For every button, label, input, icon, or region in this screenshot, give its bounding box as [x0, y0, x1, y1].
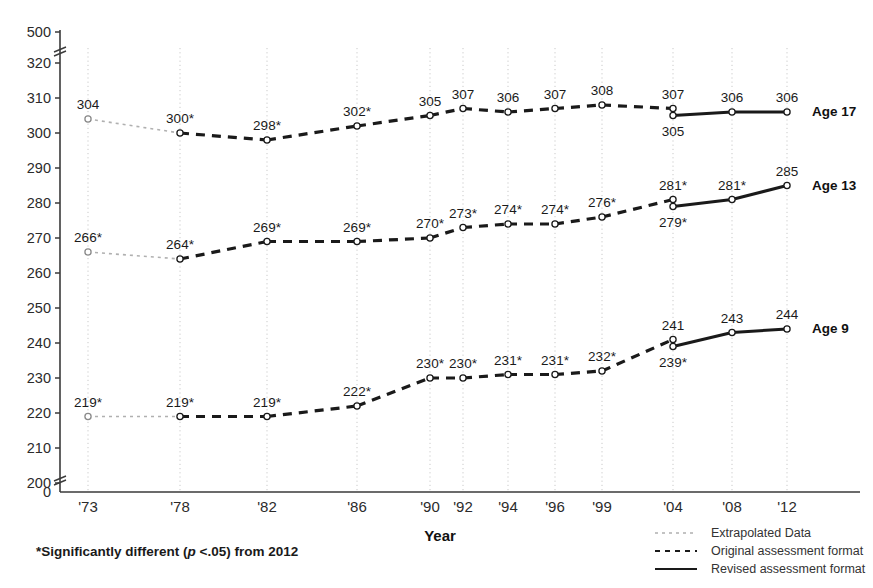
data-point-label: 276*: [588, 195, 617, 210]
series-segment: [555, 371, 602, 375]
data-point-marker: [670, 343, 676, 349]
data-point-label: 244: [776, 307, 799, 322]
data-point-marker: [264, 137, 270, 143]
data-point-label: 269*: [253, 220, 282, 235]
data-point-label: 239*: [659, 355, 688, 370]
x-tick-label-y78: '78: [170, 498, 190, 515]
x-tick-label-y99: '99: [592, 498, 612, 515]
data-point-label: 266*: [74, 230, 103, 245]
data-point-label: 219*: [253, 395, 282, 410]
data-point-marker: [670, 203, 676, 209]
series-segment: [555, 217, 602, 224]
data-point-label: 231*: [541, 353, 570, 368]
data-point-label: 298*: [253, 118, 282, 133]
data-point-marker: [599, 214, 605, 220]
data-point-marker: [670, 105, 676, 111]
data-point-label: 222*: [343, 384, 372, 399]
series-label-age-9: Age 9: [812, 321, 849, 336]
data-point-marker: [505, 109, 511, 115]
data-point-marker: [505, 371, 511, 377]
series-segment: [430, 109, 463, 116]
data-point-marker: [670, 112, 676, 118]
y-tick-label: 270: [27, 230, 51, 246]
data-point-label: 279*: [659, 215, 688, 230]
y-tick-label: 280: [27, 195, 51, 211]
y-tick-label: 210: [27, 440, 51, 456]
data-point-marker: [729, 196, 735, 202]
y-tick-label: 500: [27, 24, 51, 40]
x-axis-title: Year: [424, 527, 456, 544]
data-point-marker: [264, 413, 270, 419]
y-tick-label: 310: [27, 90, 51, 106]
data-point-marker: [85, 116, 91, 122]
x-tick-label-y96: '96: [545, 498, 565, 515]
data-point-label: 308: [591, 83, 614, 98]
data-point-marker: [599, 102, 605, 108]
footnote-text: *Significantly different (p <.05) from 2…: [36, 544, 298, 559]
data-point-label: 307: [452, 87, 475, 102]
data-point-label: 219*: [74, 395, 103, 410]
x-tick-label-y08: '08: [722, 498, 742, 515]
data-point-marker: [670, 196, 676, 202]
y-tick-label: 0: [43, 484, 51, 500]
data-point-marker: [670, 336, 676, 342]
series-segment: [673, 112, 732, 116]
x-axis-tick-labels: '73'78'82'86'90'92'94'96'99'04'08'12Year: [78, 498, 797, 544]
x-tick-label-y92: '92: [453, 498, 473, 515]
footnote-post: <.05) from 2012: [196, 544, 298, 559]
data-point-marker: [552, 371, 558, 377]
series-segment: [88, 252, 180, 259]
data-point-marker: [177, 413, 183, 419]
data-point-marker: [552, 105, 558, 111]
naep-trend-chart: 5003203103002902802702602502402302202102…: [0, 0, 873, 588]
data-series: [85, 102, 790, 420]
data-point-label: 306: [721, 90, 744, 105]
data-point-marker: [354, 403, 360, 409]
y-tick-label: 300: [27, 125, 51, 141]
data-point-marker: [177, 130, 183, 136]
data-point-marker: [85, 413, 91, 419]
x-tick-label-y12: '12: [777, 498, 797, 515]
y-tick-label: 290: [27, 160, 51, 176]
data-point-label: 307: [662, 87, 685, 102]
series-segment: [673, 333, 732, 347]
data-point-label: 230*: [449, 356, 478, 371]
series-segment: [463, 109, 508, 113]
data-point-marker: [784, 326, 790, 332]
y-axis-ticks: 5003203103002902802702602502402302202102…: [27, 24, 60, 500]
data-point-marker: [460, 375, 466, 381]
data-point-label: 306: [776, 90, 799, 105]
legend-label-original: Original assessment format: [711, 544, 864, 558]
legend-label-revised: Revised assessment format: [711, 562, 866, 576]
x-tick-label-y86: '86: [347, 498, 367, 515]
y-tick-label: 220: [27, 405, 51, 421]
series-segment: [555, 105, 602, 109]
footnote-pre: *Significantly different (: [36, 544, 188, 559]
data-point-label: 219*: [166, 395, 195, 410]
data-point-marker: [85, 249, 91, 255]
data-point-label: 230*: [416, 356, 445, 371]
data-point-label: 232*: [588, 349, 617, 364]
series-segment: [673, 200, 732, 207]
series-segment: [732, 329, 787, 333]
data-point-marker: [599, 368, 605, 374]
data-point-marker: [460, 224, 466, 230]
x-tick-label-y04: '04: [663, 498, 683, 515]
data-point-label: 305: [662, 124, 685, 139]
y-tick-label: 250: [27, 300, 51, 316]
data-point-marker: [784, 109, 790, 115]
y-tick-label: 230: [27, 370, 51, 386]
y-tick-label: 320: [27, 55, 51, 71]
series-segment: [602, 105, 673, 109]
series-segment: [357, 238, 430, 242]
series-segment: [508, 109, 555, 113]
series-name-labels: Age 17Age 13Age 9: [812, 104, 857, 336]
data-point-marker: [729, 109, 735, 115]
data-point-marker: [427, 235, 433, 241]
data-point-label: 300*: [166, 111, 195, 126]
data-point-marker: [552, 221, 558, 227]
series-label-age-17: Age 17: [812, 104, 856, 119]
series-segment: [180, 133, 267, 140]
data-point-label: 269*: [343, 220, 372, 235]
data-point-label: 307: [544, 87, 567, 102]
